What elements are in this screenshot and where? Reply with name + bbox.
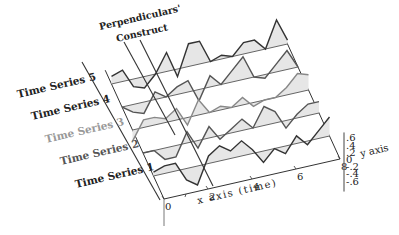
- series-label-3: Time Series 3: [44, 115, 125, 145]
- y-tick-label-6: -.6: [346, 176, 359, 187]
- y-axis-label: y axis: [358, 142, 389, 159]
- x-tick-label-6: 6: [297, 171, 303, 182]
- series-label-2: Time Series 2: [59, 137, 140, 167]
- series-label-4: Time Series 4: [30, 92, 111, 122]
- x-tick-6: [294, 166, 296, 169]
- x-tick-4: [250, 176, 252, 179]
- x-tick-label-0: 0: [165, 201, 171, 212]
- series-label-1: Time Series 1: [74, 160, 155, 190]
- x-axis-label: x axis (time): [196, 177, 278, 206]
- x-tick-2: [206, 186, 208, 189]
- series-label-5: Time Series 5: [16, 70, 97, 100]
- stacked-time-series-chart: 02468.6.4.20-.2-.4-.6 Perpendiculars' Co…: [0, 0, 399, 235]
